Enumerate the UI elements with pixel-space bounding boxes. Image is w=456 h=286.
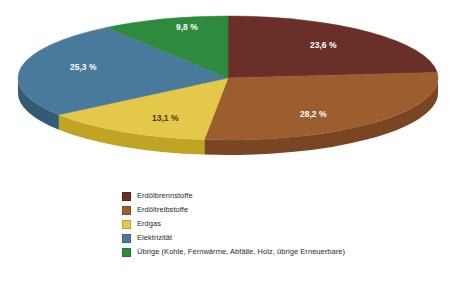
- legend-item-label: Elektrizität: [137, 233, 172, 243]
- legend-item[interactable]: Übrige (Kohle, Fernwärme, Abfälle, Holz,…: [122, 245, 422, 259]
- pie-chart-figure: 23,6 %28,2 %13,1 %25,3 %9,8 % Erdölbrenn…: [0, 0, 456, 286]
- legend-swatch-icon: [122, 192, 131, 201]
- legend-swatch-icon: [122, 234, 131, 243]
- legend-item[interactable]: Erdölbrennstoffe: [122, 189, 422, 203]
- legend-item-label: Erdölbrennstoffe: [137, 191, 193, 201]
- legend-swatch-icon: [122, 220, 131, 229]
- slice-value-label-erdoelbrennstoffe: 23,6 %: [310, 40, 337, 50]
- legend-item-label: Erdgas: [137, 219, 161, 229]
- legend-item-label: Übrige (Kohle, Fernwärme, Abfälle, Holz,…: [137, 247, 345, 257]
- pie-svg: 23,6 %28,2 %13,1 %25,3 %9,8 %: [0, 4, 456, 176]
- slice-value-label-erdgas: 13,1 %: [152, 113, 179, 123]
- legend-swatch-icon: [122, 206, 131, 215]
- slice-value-label-erdoeltreibstoffe: 28,2 %: [300, 109, 327, 119]
- slice-value-label-uebrige: 9,8 %: [176, 22, 198, 32]
- slice-value-label-elektrizitaet: 25,3 %: [70, 62, 97, 72]
- legend-item[interactable]: Erdöltreibstoffe: [122, 203, 422, 217]
- legend-swatch-icon: [122, 248, 131, 257]
- pie-plot-area: 23,6 %28,2 %13,1 %25,3 %9,8 %: [0, 4, 456, 176]
- legend-item-label: Erdöltreibstoffe: [137, 205, 188, 215]
- pie-slice-tops: [18, 16, 438, 140]
- legend-item[interactable]: Erdgas: [122, 217, 422, 231]
- chart-legend: ErdölbrennstoffeErdöltreibstoffeErdgasEl…: [122, 189, 422, 259]
- legend-item[interactable]: Elektrizität: [122, 231, 422, 245]
- pie-slice-erdoeltreibstoffe[interactable]: [204, 73, 438, 140]
